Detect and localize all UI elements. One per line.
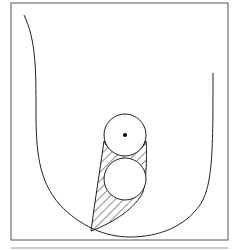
lower-circle — [104, 158, 146, 200]
center-dot — [123, 133, 127, 137]
diagram-canvas — [0, 0, 237, 250]
